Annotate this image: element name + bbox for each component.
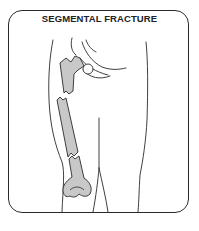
inner-thigh-left — [93, 168, 99, 212]
segmental-fracture-illustration — [0, 0, 199, 231]
femoral-head — [83, 64, 93, 74]
inner-thigh-right — [99, 168, 108, 212]
middle-segment — [57, 97, 78, 157]
proximal-fragment — [60, 56, 84, 94]
thigh-outline-right — [138, 42, 148, 212]
distal-fragment — [63, 156, 91, 197]
